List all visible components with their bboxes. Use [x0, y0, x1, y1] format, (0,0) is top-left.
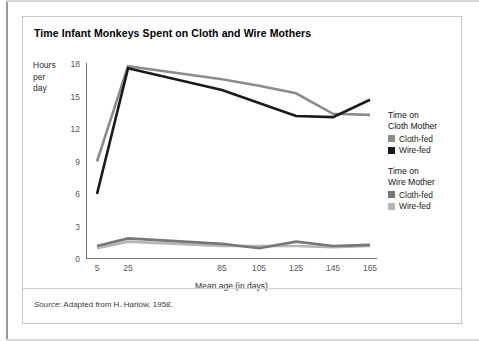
legend-entry[interactable]: Cloth-fed	[388, 134, 474, 144]
legend-swatch-icon	[388, 147, 395, 154]
legend-entry[interactable]: Wire-fed	[388, 201, 474, 211]
legend-entry-label: Wire-fed	[399, 145, 431, 155]
legend-entry[interactable]: Wire-fed	[388, 145, 474, 155]
legend-entry-label: Cloth-fed	[399, 134, 433, 144]
figure-container: Time Infant Monkeys Spent on Cloth and W…	[0, 0, 479, 341]
page-left-rule	[6, 0, 8, 341]
legend-group: Time onWire MotherCloth-fedWire-fed	[388, 166, 474, 211]
legend-swatch-icon	[388, 135, 395, 142]
legend-group-title: Time on	[388, 110, 474, 121]
legend-entry[interactable]: Cloth-fed	[388, 190, 474, 200]
y-axis-tick-labels: 0369121518	[50, 0, 80, 341]
source-divider	[23, 288, 461, 289]
source-text: : Adapted from H. Harlow, 1958.	[59, 300, 172, 309]
y-tick-label: 6	[75, 189, 80, 199]
y-tick-label: 15	[71, 92, 80, 102]
plot-area	[86, 64, 376, 259]
x-tick-label: 145	[326, 263, 340, 273]
x-tick-label: 105	[252, 263, 266, 273]
x-tick-label: 85	[217, 263, 226, 273]
line-chart-svg	[86, 64, 376, 259]
legend-group-title: Time on	[388, 166, 474, 177]
series-line	[97, 66, 370, 161]
y-tick-label: 12	[71, 124, 80, 134]
x-axis-tick-labels: 52585105125145165	[0, 263, 479, 277]
chart-legend: Time onCloth MotherCloth-fedWire-fedTime…	[388, 110, 474, 222]
series-line	[97, 68, 370, 194]
x-tick-label: 5	[95, 263, 100, 273]
legend-entry-label: Cloth-fed	[399, 190, 433, 200]
y-tick-label: 18	[71, 59, 80, 69]
source-label: Source	[34, 300, 59, 309]
y-tick-label: 3	[75, 222, 80, 232]
x-axis-title: Mean age (in days)	[86, 281, 377, 291]
legend-group: Time onCloth MotherCloth-fedWire-fed	[388, 110, 474, 155]
y-tick-label: 9	[75, 157, 80, 167]
x-tick-label: 125	[289, 263, 303, 273]
legend-group-title: Cloth Mother	[388, 121, 474, 132]
x-tick-label: 25	[123, 263, 132, 273]
x-tick-label: 165	[363, 263, 377, 273]
legend-swatch-icon	[388, 203, 395, 210]
legend-swatch-icon	[388, 191, 395, 198]
source-note: Source: Adapted from H. Harlow, 1958.	[34, 300, 173, 309]
legend-group-title: Wire Mother	[388, 177, 474, 188]
legend-entry-label: Wire-fed	[399, 201, 431, 211]
